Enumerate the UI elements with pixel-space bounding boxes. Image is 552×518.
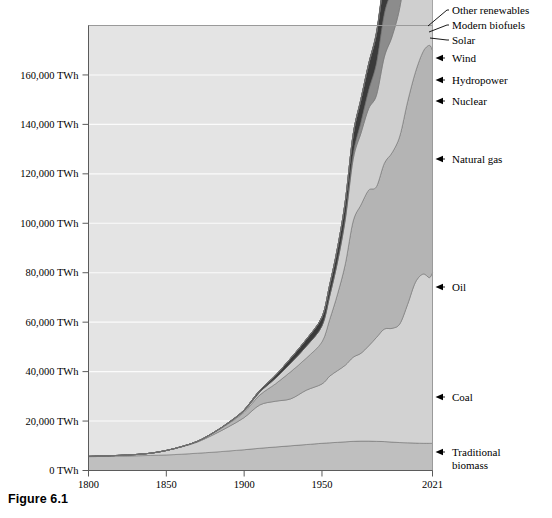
arrowhead-wind (436, 55, 444, 61)
series-annotations: Other renewablesModern biofuelsSolarWind… (428, 4, 529, 471)
series-label-coal: Coal (452, 391, 473, 403)
y-tick-label-160000: 160,000 TWh (20, 70, 79, 81)
y-tick-label-20000: 20,000 TWh (26, 416, 80, 427)
y-tick-label-140000: 140,000 TWh (20, 119, 79, 130)
y-tick-label-60000: 60,000 TWh (26, 317, 80, 328)
x-tick-label-1850: 1850 (156, 479, 177, 490)
x-tick-label-1900: 1900 (234, 479, 255, 490)
series-label-oil: Oil (452, 281, 466, 293)
series-label-nuclear: Nuclear (452, 95, 487, 107)
series-label-solar: Solar (452, 34, 476, 46)
y-tick-label-120000: 120,000 TWh (20, 168, 79, 179)
series-label-traditional-biomass: Traditionalbiomass (452, 446, 501, 471)
series-label-hydropower: Hydropower (452, 74, 508, 86)
y-tick-label-100000: 100,000 TWh (20, 218, 79, 229)
y-tick-label-80000: 80,000 TWh (26, 267, 80, 278)
arrowhead-natural-gas (436, 156, 444, 162)
arrowhead-nuclear (436, 98, 444, 104)
series-label-natural-gas: Natural gas (452, 153, 502, 165)
series-label-wind: Wind (452, 52, 476, 64)
x-tick-label-1950: 1950 (311, 479, 332, 490)
series-label-other-renewables: Other renewables (452, 4, 529, 16)
arrowhead-oil (436, 284, 444, 290)
y-axis-tick-labels: 0 TWh20,000 TWh40,000 TWh60,000 TWh80,00… (20, 70, 79, 477)
stacked-area-chart: 0 TWh20,000 TWh40,000 TWh60,000 TWh80,00… (0, 0, 552, 518)
figure-container: 0 TWh20,000 TWh40,000 TWh60,000 TWh80,00… (0, 0, 552, 518)
series-label-modern-biofuels: Modern biofuels (452, 19, 525, 31)
arrowhead-traditional-biomass (436, 449, 444, 455)
arrowhead-coal (436, 394, 444, 400)
x-tick-label-1800: 1800 (78, 479, 99, 490)
figure-caption: Figure 6.1 (8, 492, 68, 506)
x-axis-tick-labels: 18001850190019502021 (78, 479, 443, 490)
y-tick-label-40000: 40,000 TWh (26, 366, 80, 377)
arrowhead-hydropower (436, 77, 444, 83)
x-tick-label-2021: 2021 (422, 479, 443, 490)
y-tick-label-0: 0 TWh (49, 465, 79, 476)
